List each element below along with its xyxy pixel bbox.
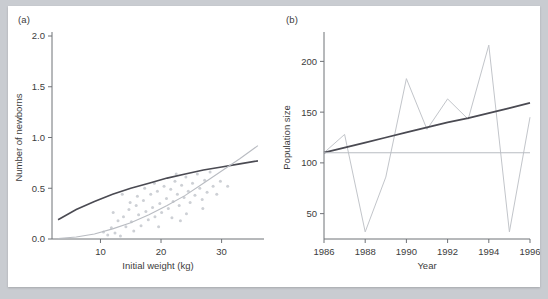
scatter-point: [160, 211, 163, 214]
scatter-point: [142, 199, 145, 202]
scatter-point: [124, 225, 127, 228]
scatter-point: [163, 185, 166, 188]
scatter-point: [132, 229, 135, 232]
scatter-point: [144, 210, 147, 213]
panel-b-y-axis-title: Population size: [281, 105, 292, 169]
scatter-point: [201, 207, 204, 210]
scatter-point: [180, 184, 183, 187]
scatter-point: [153, 215, 156, 218]
panel-a-scatter-group: [102, 171, 229, 238]
scatter-point: [209, 171, 212, 174]
panel-a-x-tick-label: 10: [95, 246, 106, 257]
scatter-point: [117, 219, 120, 222]
panel-a-y-axis-title: Number of newborns: [13, 93, 24, 181]
panel-a-x-tick-label: 30: [216, 246, 227, 257]
panel-b-x-tick-label: 1996: [519, 246, 540, 257]
panel-a-y-tick-label: 1.0: [32, 132, 45, 143]
panel-b-y-tick-label: 50: [306, 208, 317, 219]
panel-a-x-tick-label: 20: [156, 246, 167, 257]
scatter-point: [158, 202, 161, 205]
panel-a-y-tick-label: 2.0: [32, 30, 45, 41]
scatter-point: [106, 233, 109, 236]
scatter-point: [184, 176, 187, 179]
scatter-point: [219, 180, 222, 183]
scatter-point: [169, 188, 172, 191]
panel-b-plot: 50100150200198619881990199219941996YearP…: [274, 6, 540, 287]
scatter-point: [137, 213, 140, 216]
panel-a-x-axis-title: Initial weight (kg): [122, 260, 193, 271]
panel-b-y-tick-label: 100: [301, 157, 317, 168]
scatter-point: [178, 204, 181, 207]
figure-card: (a) 0.00.51.01.52.0102030Initial weight …: [8, 6, 540, 287]
scatter-point: [212, 185, 215, 188]
panel-b-x-tick-label: 1986: [313, 246, 334, 257]
panel-a-y-tick-label: 0.0: [32, 233, 45, 244]
scatter-point: [198, 187, 201, 190]
scatter-point: [129, 201, 132, 204]
scatter-point: [136, 195, 139, 198]
scatter-point: [147, 218, 150, 221]
scatter-point: [140, 224, 143, 227]
scatter-point: [119, 234, 122, 237]
scatter-point: [156, 190, 159, 193]
panel-a: (a) 0.00.51.01.52.0102030Initial weight …: [8, 6, 274, 287]
scatter-point: [122, 215, 125, 218]
scatter-point: [135, 204, 138, 207]
panel-a-plot: 0.00.51.01.52.0102030Initial weight (kg)…: [8, 6, 274, 287]
scatter-point: [179, 219, 182, 222]
panel-b-observed-line: [324, 45, 530, 232]
panel-b-trend-line: [324, 103, 530, 153]
scatter-point: [185, 212, 188, 215]
scatter-point: [193, 194, 196, 197]
scatter-point: [176, 193, 179, 196]
scatter-point: [173, 180, 176, 183]
scatter-point: [170, 216, 173, 219]
panel-b: (b) 50100150200198619881990199219941996Y…: [274, 6, 540, 287]
panel-b-x-tick-label: 1988: [355, 246, 376, 257]
scatter-point: [167, 207, 170, 210]
scatter-point: [143, 187, 146, 190]
panel-b-x-tick-label: 1994: [478, 246, 499, 257]
scatter-point: [201, 198, 204, 201]
scatter-point: [196, 173, 199, 176]
scatter-point: [191, 182, 194, 185]
scatter-point: [149, 193, 152, 196]
scatter-point: [151, 206, 154, 209]
scatter-point: [215, 193, 218, 196]
scatter-point: [113, 231, 116, 234]
scatter-point: [127, 208, 130, 211]
panel-a-y-tick-label: 0.5: [32, 183, 45, 194]
panel-b-x-tick-label: 1990: [396, 246, 417, 257]
scatter-point: [112, 211, 115, 214]
panel-b-x-tick-label: 1992: [437, 246, 458, 257]
scatter-point: [206, 191, 209, 194]
scatter-point: [157, 225, 160, 228]
scatter-point: [226, 185, 229, 188]
panel-b-y-tick-label: 200: [301, 56, 317, 67]
scatter-point: [121, 193, 124, 196]
panel-b-y-tick-label: 150: [301, 107, 317, 118]
scatter-point: [189, 201, 192, 204]
panel-a-y-tick-label: 1.5: [32, 81, 45, 92]
scatter-point: [165, 197, 168, 200]
panel-b-x-axis-title: Year: [417, 260, 436, 271]
